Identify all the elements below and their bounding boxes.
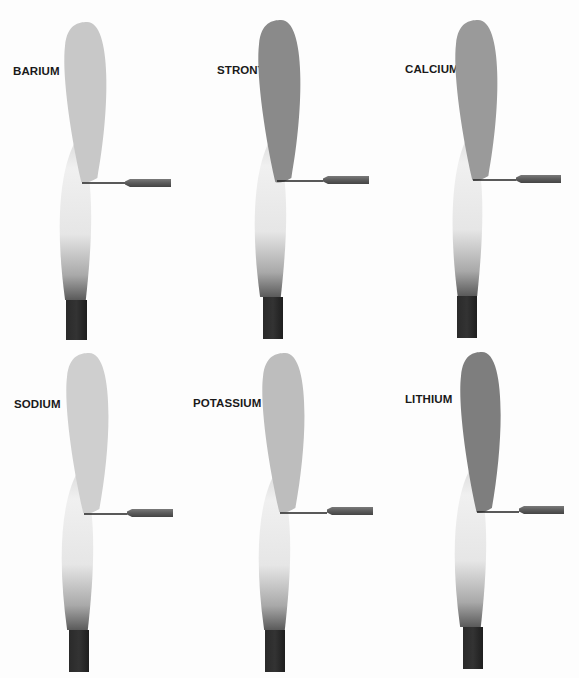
calcium-burner [457,296,477,338]
barium-loop-handle [125,179,171,187]
potassium-loop-handle [327,507,373,515]
barium-burner [66,300,87,340]
lithium-loop-handle [519,506,564,514]
strontium-burner [263,297,283,339]
lithium-burner [463,627,483,669]
sodium-burner [69,630,89,672]
potassium-burner [265,630,285,672]
flames-illustration [0,0,579,678]
sodium-loop-handle [127,509,173,517]
strontium-loop-handle [323,176,369,184]
calcium-loop-handle [516,175,561,183]
